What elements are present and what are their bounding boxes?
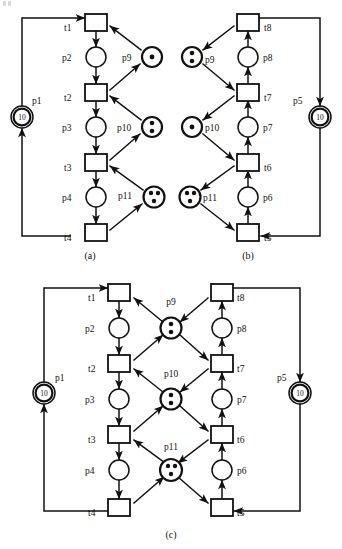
label-p7: p7: [263, 123, 273, 133]
label-t8: t8: [237, 293, 245, 303]
arc-p9-t7: [203, 64, 234, 90]
place-p5-count: 10: [316, 113, 324, 122]
petri-net-figure: 10 t1 t2 t3 t4 p2 p3 p4 p1 p9 p10 p11 (a…: [0, 0, 342, 549]
label-t4: t4: [64, 233, 72, 243]
arc-p5-t5: [261, 128, 320, 236]
arc-t8-p9: [180, 298, 208, 322]
token: [156, 191, 160, 195]
scan-artifact: [3, 1, 11, 6]
arc-p10-t2: [134, 369, 163, 392]
token: [173, 464, 177, 468]
label-p4: p4: [62, 193, 72, 203]
token: [169, 393, 174, 398]
token: [185, 191, 189, 195]
label-t1: t1: [88, 293, 96, 303]
arc-t4-p11: [110, 204, 142, 230]
place-p4[interactable]: [86, 187, 106, 207]
place-p4[interactable]: [109, 460, 129, 480]
arc-p9-t7: [180, 335, 208, 360]
place-p3[interactable]: [86, 117, 106, 137]
place-p6[interactable]: [238, 187, 258, 207]
place-p11[interactable]: [180, 187, 201, 208]
arc-t7-p10: [180, 369, 208, 392]
transition-t5[interactable]: [211, 499, 233, 516]
token: [150, 121, 155, 126]
place-p9[interactable]: [161, 318, 182, 339]
transition-t4[interactable]: [108, 499, 130, 516]
transition-t5[interactable]: [237, 224, 259, 241]
place-p6[interactable]: [212, 460, 232, 480]
place-p10[interactable]: [161, 389, 182, 410]
place-p10[interactable]: [142, 117, 162, 137]
place-p7[interactable]: [238, 117, 258, 137]
arc-p11-t3: [110, 166, 143, 190]
token: [188, 199, 192, 203]
transition-t3[interactable]: [85, 154, 107, 171]
arc-p9-t1: [110, 26, 141, 50]
label-t5: t5: [237, 508, 245, 518]
place-p2[interactable]: [86, 47, 106, 67]
label-p10: p10: [164, 369, 179, 379]
arc-t8-p9: [203, 26, 234, 50]
token: [190, 59, 195, 64]
place-p8[interactable]: [238, 47, 258, 67]
label-t6: t6: [237, 435, 245, 445]
transition-t2[interactable]: [108, 355, 130, 372]
arc-t3-p10: [134, 406, 163, 431]
arc-p9-t1: [134, 298, 163, 322]
label-p11: p11: [164, 442, 178, 452]
token: [166, 464, 170, 468]
token: [192, 191, 196, 195]
label-t4: t4: [88, 508, 96, 518]
transition-t6[interactable]: [237, 154, 259, 171]
label-t2: t2: [88, 364, 96, 374]
place-p1-count: 10: [40, 389, 48, 398]
label-t3: t3: [64, 163, 72, 173]
transition-t8[interactable]: [237, 14, 259, 31]
place-p7[interactable]: [212, 389, 232, 409]
place-p2[interactable]: [109, 318, 129, 338]
arc-p1-t1: [44, 288, 108, 382]
label-p10: p10: [117, 123, 132, 133]
arc-t4-p1: [22, 128, 70, 236]
label-t5: t5: [264, 233, 272, 243]
place-p11[interactable]: [160, 459, 182, 481]
token: [190, 125, 195, 130]
place-p9[interactable]: [182, 47, 202, 67]
transition-t3[interactable]: [108, 426, 130, 443]
token: [150, 55, 155, 60]
subfigure-a: 10 t1 t2 t3 t4 p2 p3 p4 p1 p9 p10 p11 (a…: [11, 14, 165, 262]
transition-t4[interactable]: [85, 224, 107, 241]
transition-t1[interactable]: [85, 14, 107, 31]
arc-p1-t1: [22, 18, 85, 106]
label-p9: p9: [122, 53, 132, 63]
place-p8[interactable]: [212, 318, 232, 338]
arc-p5-t5: [234, 404, 300, 511]
place-p11[interactable]: [144, 187, 165, 208]
label-p3: p3: [85, 395, 95, 405]
transition-t8[interactable]: [211, 284, 233, 301]
subfigure-c: 10 10 t1 t2 t3 t4 p2 p3 p4 p1 t8 t7 t6 t…: [33, 284, 311, 541]
transition-t7[interactable]: [237, 84, 259, 101]
token: [169, 322, 174, 327]
transition-t6[interactable]: [211, 426, 233, 443]
transition-t7[interactable]: [211, 355, 233, 372]
caption-b: (b): [242, 250, 254, 262]
transition-t1[interactable]: [108, 284, 130, 301]
arc-t2-p9: [134, 335, 163, 360]
arc-p10-t2: [110, 96, 141, 120]
arc-t6-p11: [201, 166, 234, 190]
label-p9: p9: [205, 55, 215, 65]
token: [152, 199, 156, 203]
label-p5: p5: [277, 373, 287, 383]
arc-t4-p1: [44, 404, 112, 511]
arc-t2-p9: [110, 64, 140, 90]
transition-t2[interactable]: [85, 84, 107, 101]
arc-t4-p11: [134, 477, 164, 503]
place-p3[interactable]: [109, 389, 129, 409]
label-t7: t7: [264, 93, 272, 103]
label-t1: t1: [64, 23, 72, 33]
token: [149, 191, 153, 195]
token: [169, 472, 173, 476]
label-p1: p1: [32, 96, 42, 106]
